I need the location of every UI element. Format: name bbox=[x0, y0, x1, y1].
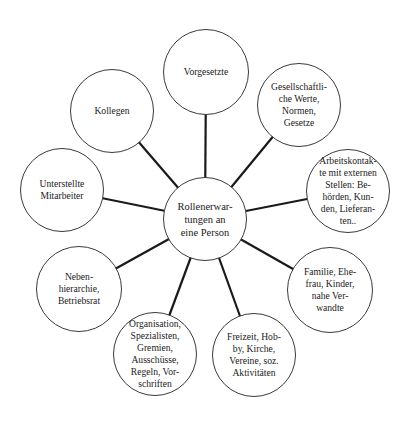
node-gesellschaftliche-werte: Gesellschaftli- che Werte, Normen, Geset… bbox=[257, 63, 341, 147]
node-nebenhierarchie: Neben- hierarchie, Betriebsrat bbox=[36, 246, 122, 332]
center-node-label: Rollenerwar- tungen an eine Person bbox=[171, 200, 238, 239]
node-vorgesetzte: Vorgesetzte bbox=[163, 29, 249, 115]
node-familie: Familie, Ehe- frau, Kinder, nahe Ver- wa… bbox=[287, 247, 373, 333]
node-label: Familie, Ehe- frau, Kinder, nahe Ver- wa… bbox=[298, 266, 362, 314]
center-node-role-expectations: Rollenerwar- tungen an eine Person bbox=[163, 177, 247, 261]
node-freizeit: Freizeit, Hob- by, Kirche, Vereine, soz.… bbox=[212, 313, 296, 397]
node-arbeitskontakte: Arbeitskontak- te mit externen Stellen: … bbox=[306, 149, 390, 233]
node-label: Organisation, Spezialisten, Gremien, Aus… bbox=[123, 318, 187, 390]
role-expectations-diagram: Rollenerwar- tungen an eine Person Vorge… bbox=[0, 0, 406, 422]
node-label: Neben- hierarchie, Betriebsrat bbox=[52, 271, 106, 307]
node-label: Kollegen bbox=[88, 105, 135, 117]
node-label: Vorgesetzte bbox=[178, 66, 234, 78]
node-label: Unterstellte Mitarbeiter bbox=[34, 178, 91, 202]
node-organisation: Organisation, Spezialisten, Gremien, Aus… bbox=[113, 312, 197, 396]
node-label: Freizeit, Hob- by, Kirche, Vereine, soz.… bbox=[221, 331, 287, 379]
node-label: Arbeitskontak- te mit externen Stellen: … bbox=[313, 155, 383, 227]
node-label: Gesellschaftli- che Werte, Normen, Geset… bbox=[265, 81, 333, 129]
node-kollegen: Kollegen bbox=[70, 69, 154, 153]
node-unterstellte-mitarbeiter: Unterstellte Mitarbeiter bbox=[20, 148, 104, 232]
